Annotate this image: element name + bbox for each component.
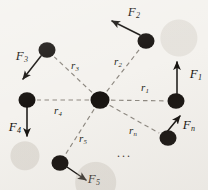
particle-node-group [19,33,185,170]
diagram-canvas [0,0,208,190]
force-label-p1-subscript: 1 [198,73,202,82]
particle-pn[interactable] [160,130,177,145]
force-label-p1-base: F [190,66,198,81]
distance-label-p1: r1 [141,82,149,95]
distance-label-p4: r4 [54,105,62,118]
particle-p1[interactable] [168,93,185,108]
distance-label-pn: rn [129,125,137,138]
force-arrow-p5 [67,167,86,180]
distance-label-p1-base: r [141,81,145,93]
particle-p3[interactable] [39,42,56,57]
particle-p2[interactable] [138,33,155,48]
force-label-p4: F4 [9,120,21,135]
force-diagram-figure: F1r1F2r2F3r3F4r4F5r5Fnrn··· [0,0,208,190]
radius-line-p2 [107,49,140,91]
distance-label-pn-base: r [129,124,133,136]
force-label-p3-subscript: 3 [24,55,28,64]
force-label-p1: F1 [190,67,202,82]
force-label-p3-base: F [16,48,24,63]
force-label-p5-base: F [88,171,96,186]
force-label-p2: F2 [128,5,140,20]
distance-label-p1-subscript: 1 [146,86,149,93]
distance-label-p2-subscript: 2 [119,60,122,67]
force-label-pn-subscript: n [191,124,195,133]
distance-label-pn-subscript: n [134,129,137,136]
distance-label-p4-subscript: 4 [59,109,62,116]
distance-label-p5-subscript: 5 [84,137,87,144]
distance-label-p3-base: r [71,59,75,71]
force-label-p4-subscript: 4 [17,126,21,135]
force-label-p2-subscript: 2 [136,11,140,20]
ellipsis-marker: ··· [117,150,132,162]
force-label-p5-subscript: 5 [96,178,100,187]
force-label-p3: F3 [16,49,28,64]
force-label-p4-base: F [9,119,17,134]
force-label-p5: F5 [88,172,100,187]
particle-p4[interactable] [19,92,36,107]
distance-label-p2: r2 [114,56,122,69]
distance-label-p2-base: r [114,55,118,67]
force-arrow-p2 [112,21,140,35]
force-label-pn-base: F [183,117,191,132]
particle-central-particle[interactable] [91,91,110,108]
particle-p5[interactable] [52,155,69,170]
distance-label-p3-subscript: 3 [76,64,79,71]
distance-label-p5: r5 [79,133,87,146]
distance-label-p3: r3 [71,60,79,73]
force-label-pn: Fn [183,118,195,133]
distance-label-p5-base: r [79,132,83,144]
force-label-p2-base: F [128,4,136,19]
radius-line-p1 [111,100,166,101]
distance-label-p4-base: r [54,104,58,116]
